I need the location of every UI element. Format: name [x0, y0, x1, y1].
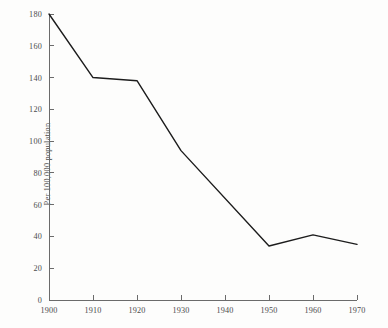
x-tick-label: 1970 — [348, 306, 365, 315]
x-tick-label: 1940 — [216, 306, 233, 315]
line-chart-figure: Per 100,000 population 02040608010012014… — [0, 0, 388, 328]
x-tick-label: 1910 — [84, 306, 101, 315]
y-tick-label: 40 — [0, 232, 42, 241]
y-tick-label: 20 — [0, 264, 42, 273]
y-axis-ticks — [49, 14, 54, 300]
x-tick-label: 1930 — [172, 306, 189, 315]
y-tick-label: 0 — [0, 296, 42, 305]
y-tick-label: 100 — [0, 137, 42, 146]
plot-area — [0, 0, 388, 328]
x-tick-label: 1920 — [128, 306, 145, 315]
data-series-line — [49, 14, 357, 246]
axis-lines — [49, 14, 357, 300]
y-tick-label: 80 — [0, 168, 42, 177]
x-axis-ticks — [49, 295, 357, 300]
x-tick-label: 1960 — [304, 306, 321, 315]
y-tick-label: 120 — [0, 105, 42, 114]
y-tick-label: 160 — [0, 41, 42, 50]
x-tick-label: 1900 — [40, 306, 57, 315]
y-tick-label: 180 — [0, 10, 42, 19]
y-tick-label: 60 — [0, 200, 42, 209]
x-tick-label: 1950 — [260, 306, 277, 315]
y-tick-label: 140 — [0, 73, 42, 82]
